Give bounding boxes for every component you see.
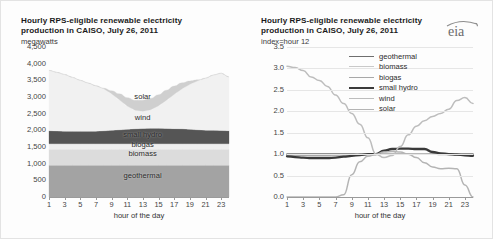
legend-label: solar (379, 105, 395, 113)
right-plot-area: 0.00.51.01.52.02.53.03.5 135791113151719… (287, 47, 473, 197)
legend-line-swatch (349, 109, 374, 110)
left-y-tick: 500 (33, 177, 46, 185)
left-plot-area: 05001,0001,5002,0002,5003,0003,5004,0004… (49, 47, 229, 197)
right-x-tick: 3 (301, 201, 305, 208)
right-x-axis-line (287, 197, 473, 198)
legend-line-swatch (349, 56, 374, 57)
left-y-tick: 1,000 (27, 160, 46, 168)
area-label-geothermal: geothermal (124, 172, 162, 180)
left-x-tick: 13 (139, 201, 147, 208)
legend-label: biogas (379, 74, 401, 82)
area-label-small-hydro: small hydro (123, 131, 162, 139)
left-x-tick: 5 (78, 201, 82, 208)
left-x-tick: 19 (186, 201, 194, 208)
left-x-tick: 23 (217, 201, 225, 208)
left-y-tick: 2,500 (27, 110, 46, 118)
left-y-tick: 4,500 (27, 43, 46, 51)
left-x-axis-title: hour of the day (49, 211, 229, 220)
infographic-page: Hourly RPS-eligible renewable electricit… (0, 0, 493, 239)
legend-item-solar[interactable]: solar (349, 104, 418, 115)
svg-text:eia: eia (448, 24, 465, 39)
area-label-biomass: biomass (128, 150, 156, 158)
area-label-biogas: biogas (131, 141, 153, 149)
right-chart-panel: Hourly RPS-eligible renewable electricit… (247, 1, 493, 239)
area-label-solar: solar (134, 93, 150, 101)
right-x-tick: 11 (364, 201, 372, 208)
legend-line-swatch (349, 77, 374, 78)
right-y-tick: 1.0 (273, 150, 284, 158)
left-x-tick: 1 (47, 201, 51, 208)
right-x-tick: 13 (380, 201, 388, 208)
right-y-tick: 3.0 (273, 65, 284, 73)
legend-item-geothermal[interactable]: geothermal (349, 51, 418, 62)
legend-label: wind (379, 95, 395, 103)
right-y-tick: 0.5 (273, 172, 284, 180)
right-gridline (287, 133, 473, 134)
legend-item-biogas[interactable]: biogas (349, 72, 418, 83)
legend-item-wind[interactable]: wind (349, 93, 418, 104)
right-y-tick: 1.5 (273, 129, 284, 137)
right-x-tick: 7 (333, 201, 337, 208)
left-x-tick: 11 (123, 201, 131, 208)
left-y-tick: 1,500 (27, 143, 46, 151)
right-y-tick: 3.5 (273, 43, 284, 51)
right-x-axis-title: hour of the day (287, 211, 473, 220)
legend-line-swatch (349, 87, 374, 89)
left-y-tick: 4,000 (27, 60, 46, 68)
left-y-tick: 3,500 (27, 77, 46, 85)
right-x-tick: 19 (428, 201, 436, 208)
left-y-tick: 2,000 (27, 127, 46, 135)
left-x-tick: 21 (201, 201, 209, 208)
right-x-tick: 15 (396, 201, 404, 208)
legend-line-swatch (349, 66, 374, 67)
left-x-tick: 15 (154, 201, 162, 208)
right-chart-legend: geothermalbiomassbiogassmall hydrowindso… (349, 51, 418, 115)
right-x-tick: 5 (317, 201, 321, 208)
eia-logo: eia (445, 17, 479, 39)
legend-label: small hydro (379, 84, 418, 92)
right-x-tick: 9 (350, 201, 354, 208)
right-chart-title: Hourly RPS-eligible renewable electricit… (261, 16, 461, 37)
right-gridline (287, 176, 473, 177)
area-label-wind: wind (135, 114, 151, 122)
right-x-tick: 1 (285, 201, 289, 208)
right-gridline (287, 154, 473, 155)
right-y-tick: 2.5 (273, 86, 284, 94)
right-gridline (287, 47, 473, 48)
right-axis-unit-label: index=hour 12 (261, 38, 309, 46)
legend-label: biomass (379, 63, 407, 71)
left-y-tick: 0 (42, 193, 46, 201)
left-y-tick: 3,000 (27, 93, 46, 101)
left-chart-title: Hourly RPS-eligible renewable electricit… (21, 16, 236, 37)
legend-line-swatch (349, 98, 374, 99)
left-x-tick: 3 (63, 201, 67, 208)
right-y-tick: 2.0 (273, 107, 284, 115)
right-x-tick: 23 (461, 201, 469, 208)
legend-item-biomass[interactable]: biomass (349, 62, 418, 73)
left-x-tick: 17 (170, 201, 178, 208)
legend-label: geothermal (379, 53, 417, 61)
left-x-tick: 9 (110, 201, 114, 208)
legend-item-small-hydro[interactable]: small hydro (349, 83, 418, 94)
right-y-tick: 0.0 (273, 193, 284, 201)
left-chart-panel: Hourly RPS-eligible renewable electricit… (1, 1, 247, 239)
left-x-axis-line (49, 197, 229, 198)
right-x-tick: 17 (412, 201, 420, 208)
right-x-tick: 21 (445, 201, 453, 208)
left-x-tick: 7 (94, 201, 98, 208)
